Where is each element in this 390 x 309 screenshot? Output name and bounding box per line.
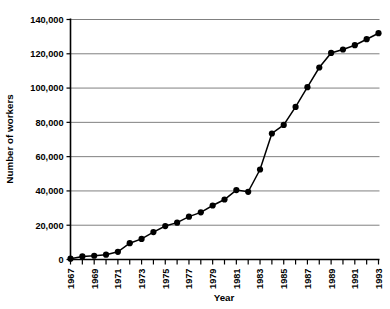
y-tick-label: 20,000 (35, 221, 63, 231)
data-point (352, 42, 358, 48)
x-tick-label: 1983 (255, 269, 265, 289)
x-tick-label: 1987 (303, 269, 313, 289)
x-tick-label: 1967 (66, 269, 76, 289)
data-point (115, 249, 121, 255)
x-axis-title: Year (214, 292, 235, 303)
y-tick-label: 100,000 (30, 83, 63, 93)
data-point (364, 36, 370, 42)
data-point (103, 252, 109, 258)
y-axis-title: Number of workers (4, 94, 15, 184)
data-point (292, 104, 298, 110)
x-tick-label: 1991 (350, 269, 360, 289)
x-tick-label: 1989 (327, 269, 337, 289)
data-point (316, 64, 322, 70)
x-tick-label: 1977 (184, 269, 194, 289)
data-point (138, 236, 144, 242)
data-point (91, 253, 97, 259)
data-point (304, 84, 310, 90)
data-point (67, 256, 73, 262)
y-tick-label: 140,000 (30, 15, 63, 25)
x-tick-label: 1981 (232, 269, 242, 289)
y-tick-label: 120,000 (30, 49, 63, 59)
y-tick-label: 40,000 (35, 186, 63, 196)
data-point (198, 209, 204, 215)
x-tick-label: 1985 (279, 269, 289, 289)
data-point (210, 202, 216, 208)
data-point (150, 229, 156, 235)
data-point (328, 50, 334, 56)
y-tick-label: 80,000 (35, 118, 63, 128)
y-tick-label: 60,000 (35, 152, 63, 162)
data-point (162, 223, 168, 229)
data-point (269, 130, 275, 136)
x-tick-label: 1975 (161, 269, 171, 289)
data-point (245, 189, 251, 195)
data-point (375, 30, 381, 36)
data-point (221, 196, 227, 202)
x-tick-label: 1993 (374, 269, 384, 289)
data-point (340, 46, 346, 52)
chart-container: 020,00040,00060,00080,000100,000120,0001… (0, 0, 390, 309)
x-tick-label: 1969 (90, 269, 100, 289)
x-tick-label: 1979 (208, 269, 218, 289)
data-point (186, 214, 192, 220)
x-tick-label: 1973 (137, 269, 147, 289)
data-point (79, 253, 85, 259)
data-point (233, 187, 239, 193)
x-tick-label: 1971 (113, 269, 123, 289)
data-point (127, 240, 133, 246)
line-chart: 020,00040,00060,00080,000100,000120,0001… (0, 0, 390, 309)
data-point (174, 220, 180, 226)
data-point (281, 122, 287, 128)
y-tick-label: 0 (58, 255, 63, 265)
data-point (257, 166, 263, 172)
